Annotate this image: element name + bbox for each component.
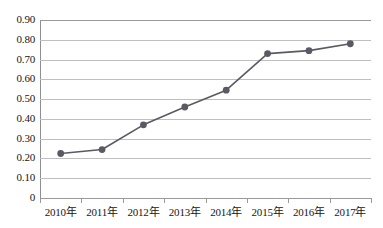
data-point-marker: 2014年: 0.545 <box>223 87 230 94</box>
line-chart: 0.900.800.700.600.500.400.300.200.100 20… <box>0 0 383 228</box>
data-point-marker: 2010年: 0.225 <box>57 150 64 157</box>
data-point-marker: 2011年: 0.245 <box>99 146 106 153</box>
data-point-marker: 2016年: 0.745 <box>306 47 313 54</box>
series-line <box>61 44 351 154</box>
data-point-marker: 2012年: 0.37 <box>140 121 147 128</box>
data-point-marker: 2015年: 0.73 <box>264 50 271 57</box>
data-series: 2010年: 0.2252011年: 0.2452012年: 0.372013年… <box>0 0 383 228</box>
data-point-marker: 2017年: 0.78 <box>347 40 354 47</box>
data-point-marker: 2013年: 0.46 <box>181 104 188 111</box>
